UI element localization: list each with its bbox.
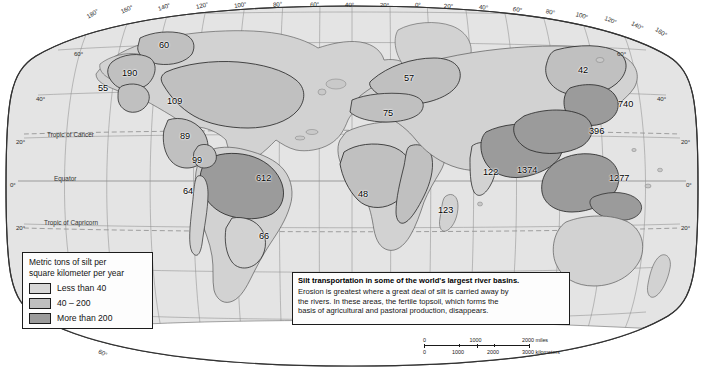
legend-row-1: 40 – 200 [29, 296, 147, 310]
longitude-label-top-10: 20° [444, 2, 453, 9]
scale-miles-labels: 010002000 miles [418, 337, 542, 345]
longitude-label-top-8: 20° [380, 1, 389, 8]
map-legend: Metric tons of silt per square kilometer… [22, 252, 153, 329]
latitude-label-left-0: 60° [74, 50, 83, 57]
map-scale-bar: 010002000 miles 0100020003000 kilometers [418, 337, 542, 359]
scale-tick-mark-km-3 [529, 344, 530, 347]
legend-label-0: Less than 40 [57, 283, 106, 294]
legend-swatch-1 [29, 298, 51, 309]
latitude-label-right-3: 0° [686, 181, 692, 188]
scale-miles-tick-1: 1000 [470, 337, 482, 343]
caption-body: Erosion is greatest where a great deal o… [298, 287, 564, 317]
parallel-name-0: Tropic of Cancer [47, 131, 94, 138]
scale-miles-tick-2: 2000 miles [522, 337, 548, 343]
legend-class-rows: Less than 4040 – 200More than 200 [29, 281, 147, 325]
longitude-label-top-5: 80° [273, 0, 283, 8]
caption-body-line2: the rivers. In these areas, the fertile … [298, 297, 564, 307]
caption-body-line3: basis of agricultural and pastoral produ… [298, 306, 564, 316]
legend-title-line1: Metric tons of silt per [29, 257, 147, 268]
scale-kilometers-labels: 0100020003000 kilometers [418, 349, 542, 357]
scale-tick-mark-km-0 [424, 344, 425, 347]
basin-value-magdalena: 99 [192, 155, 202, 165]
longitude-label-top-12: 60° [512, 5, 522, 13]
scale-km-tick-2: 2000 [487, 349, 499, 355]
basin-value-volga-danube: 57 [404, 73, 414, 83]
legend-title: Metric tons of silt per square kilometer… [29, 257, 147, 278]
basin-value-mackenzie: 60 [159, 40, 169, 50]
latitude-label-left-1: 40° [36, 95, 45, 102]
basin-value-lena-amur: 42 [578, 65, 588, 75]
scale-tick-mark-km-1 [459, 344, 460, 347]
basin-value-rio-grande: 89 [180, 131, 190, 141]
latitude-label-right-0: 60° [617, 50, 626, 57]
basin-yangtze [514, 110, 592, 153]
legend-label-2: More than 200 [57, 313, 112, 324]
basin-value-mediterranean-rivers: 75 [383, 108, 393, 118]
longitude-label-top-6: 60° [310, 1, 319, 8]
scale-tick-mark-km-2 [494, 344, 495, 347]
basin-value-fraser: 55 [98, 83, 108, 93]
legend-label-1: 40 – 200 [57, 298, 90, 309]
legend-swatch-2 [29, 313, 51, 324]
scale-km-tick-1: 1000 [452, 349, 464, 355]
caption-headline: Silt transportation in some of the world… [298, 276, 564, 286]
basin-value-parana: 66 [259, 231, 269, 241]
basin-value-yukon: 190 [122, 68, 137, 78]
basin-fraser [118, 84, 149, 112]
caption-body-line1: Erosion is greatest where a great deal o… [298, 287, 564, 297]
longitude-label-top-11: 40° [479, 3, 489, 11]
basin-value-congo-niger: 48 [358, 189, 368, 199]
basin-value-ganges-brahmaputra: 1374 [517, 165, 537, 175]
scale-tick-mark-1 [477, 344, 478, 348]
legend-swatch-0 [29, 283, 51, 294]
basin-value-mississippi: 109 [167, 96, 182, 106]
basin-value-yangtze: 396 [589, 126, 604, 136]
legend-row-0: Less than 40 [29, 281, 147, 295]
latitude-label-left-3: 0° [10, 181, 16, 188]
latitude-label-right-2: 20° [681, 138, 690, 145]
scale-km-tick-3: 3000 kilometers [522, 349, 560, 355]
basin-value-indonesia-philippines: 1277 [609, 173, 629, 183]
latitude-label-right-4: 20° [681, 224, 690, 231]
scale-miles-tick-0: 0 [423, 337, 426, 343]
legend-title-line2: square kilometer per year [29, 268, 147, 279]
map-caption-box: Silt transportation in some of the world… [292, 272, 570, 325]
parallel-name-2: Tropic of Capricorn [44, 219, 98, 226]
map-figure: 180°160°140°120°100°80°60°40°20°0°20°40°… [0, 0, 704, 372]
basin-value-zambezi: 123 [438, 205, 453, 215]
basin-value-pacific-south-america: 64 [183, 186, 193, 196]
latitude-label-right-1: 40° [657, 95, 666, 102]
latitude-label-left-4: 20° [16, 224, 25, 231]
latitude-label-left-2: 20° [16, 138, 25, 145]
basin-value-huang-he: 740 [618, 99, 633, 109]
longitude-label-top-7: 40° [345, 1, 354, 8]
parallel-name-1: Equator [54, 175, 76, 182]
legend-row-2: More than 200 [29, 311, 147, 325]
scale-km-tick-0: 0 [423, 349, 426, 355]
basin-value-indus: 122 [483, 167, 498, 177]
basin-value-amazon: 612 [256, 173, 271, 183]
longitude-label-top-9: 0° [415, 1, 421, 8]
